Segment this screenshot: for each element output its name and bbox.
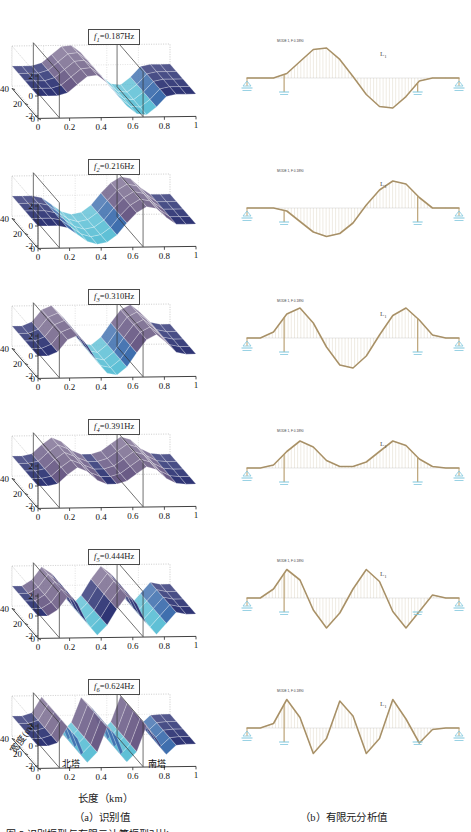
svg-text:0: 0 [29,611,34,621]
identified-mode-plot: 20-20204000.20.40.60.81 f6=0.624Hz [0,650,235,780]
svg-text:20: 20 [13,489,23,499]
span-length-label: L1 [380,700,387,709]
svg-text:0: 0 [36,512,41,520]
identified-mode-plot: 20-20204000.20.40.60.81 f2=0.216Hz [0,130,235,260]
fem-mode-plot: MODE 1, F 0.1890 L1 f6=0.610Hz [235,650,471,780]
svg-text:0.2: 0.2 [64,512,75,520]
svg-text:40: 40 [0,214,10,224]
fem-micro-text: MODE 1, F 0.1890 [277,40,304,43]
span-length-label: L1 [380,310,387,319]
svg-text:0.8: 0.8 [159,251,171,260]
fem-mode-plot: ADINA MODE 1, F 0.1890 L1 f1=0.189Hz [235,0,471,130]
tower-label-south: 南塔 [148,757,166,770]
surface-plot-svg: 20-20204000.20.40.60.81 [0,0,235,130]
svg-text:0.4: 0.4 [96,252,108,260]
svg-text:0.8: 0.8 [159,641,171,650]
identified-mode-plot: 20-20204000.20.40.60.81 f1=0.187Hz [0,0,235,130]
identified-frequency-label: f6=0.624Hz [88,679,140,695]
svg-text:1: 1 [194,380,199,390]
subcaption-a: （a）识别值 [74,809,130,824]
freq-subscript: 6 [96,685,99,692]
svg-text:0: 0 [29,221,34,231]
x-axis-title: 长度（km） [78,790,133,805]
svg-text:0.6: 0.6 [127,511,139,520]
svg-text:0.4: 0.4 [96,382,108,390]
svg-text:20: 20 [13,99,23,109]
fem-bridge-svg [235,650,471,780]
fem-micro-text: MODE 1, F 0.1890 [277,690,304,693]
fem-micro-text: MODE 1, F 0.1890 [277,430,304,433]
surface-plot-svg: 20-20204000.20.40.60.81 [0,650,235,780]
fem-bridge-svg [235,0,471,130]
subcaption-b: （b）有限元分析值 [300,809,387,824]
svg-text:0.4: 0.4 [96,772,108,780]
mode-row: 20-20204000.20.40.60.81 f1=0.187Hz ADINA… [0,0,471,130]
fem-mode-plot: MODE 1, F 0.1890 L1 f4=0.444Hz [235,390,471,520]
svg-text:0.8: 0.8 [159,121,171,130]
svg-text:2: 2 [29,71,34,81]
mode-row: 20-20204000.20.40.60.81 f5=0.444Hz MODE … [0,520,471,650]
svg-text:1: 1 [194,250,199,260]
svg-text:0: 0 [31,764,36,774]
figure-container: 20-20204000.20.40.60.81 f1=0.187Hz ADINA… [0,0,471,832]
mode-rows: 20-20204000.20.40.60.81 f1=0.187Hz ADINA… [0,0,471,780]
span-length-label: L1 [380,570,387,579]
surface-plot-svg: 20-20204000.20.40.60.81 [0,260,235,390]
svg-text:0.6: 0.6 [127,251,139,260]
freq-subscript: 5 [96,555,99,562]
freq-subscript: 3 [96,295,99,302]
svg-text:0.4: 0.4 [96,512,108,520]
svg-text:0.2: 0.2 [64,122,75,130]
identified-mode-plot: 20-20204000.20.40.60.81 f5=0.444Hz [0,520,235,650]
freq-subscript: 4 [96,425,99,432]
svg-text:1: 1 [194,640,199,650]
freq-subscript: 2 [96,165,99,172]
fem-mode-plot: MODE 1, F 0.1890 L1 f5=0.443Hz [235,520,471,650]
svg-text:0.8: 0.8 [159,381,171,390]
span-length-label: L1 [380,50,387,59]
svg-text:2: 2 [29,201,34,211]
svg-text:0: 0 [36,772,41,780]
svg-text:0: 0 [36,382,41,390]
fem-bridge-svg [235,520,471,650]
svg-text:0: 0 [36,642,41,650]
svg-text:40: 40 [0,734,10,744]
mode-row: 20-20204000.20.40.60.81 f2=0.216Hz MODE … [0,130,471,260]
svg-text:0: 0 [29,91,34,101]
span-length-label: L1 [380,440,387,449]
surface-plot-svg: 20-20204000.20.40.60.81 [0,130,235,260]
svg-text:0: 0 [29,481,34,491]
svg-text:0.4: 0.4 [96,642,108,650]
fem-bridge-svg [235,390,471,520]
svg-text:1: 1 [194,510,199,520]
svg-text:0: 0 [31,114,36,124]
mode-row: 20-20204000.20.40.60.81 f4=0.391Hz MODE … [0,390,471,520]
fem-micro-text: MODE 1, F 0.1890 [277,560,304,563]
svg-text:0: 0 [29,741,34,751]
figure-caption: 图 5 识别振型与有限元计算振型对比 [6,826,170,832]
svg-text:20: 20 [13,229,23,239]
svg-text:40: 40 [0,604,10,614]
svg-text:0: 0 [31,374,36,384]
svg-text:0.6: 0.6 [127,771,139,780]
fem-mode-plot: MODE 1, F 0.1890 L1 f3=0.309Hz [235,260,471,390]
svg-text:40: 40 [0,84,10,94]
svg-text:0: 0 [36,122,41,130]
identified-frequency-label: f5=0.444Hz [88,549,140,565]
svg-text:0.2: 0.2 [64,772,75,780]
svg-text:0: 0 [36,252,41,260]
svg-text:0.6: 0.6 [127,381,139,390]
svg-text:2: 2 [29,461,34,471]
surface-plot-svg: 20-20204000.20.40.60.81 [0,520,235,650]
identified-frequency-label: f4=0.391Hz [88,419,140,435]
svg-text:2: 2 [29,591,34,601]
svg-text:20: 20 [13,619,23,629]
svg-text:0.2: 0.2 [64,252,75,260]
svg-text:0.8: 0.8 [159,511,171,520]
svg-text:0: 0 [31,244,36,254]
svg-text:2: 2 [29,331,34,341]
svg-text:0: 0 [31,504,36,514]
svg-text:40: 40 [0,344,10,354]
svg-text:40: 40 [0,474,10,484]
svg-text:0.8: 0.8 [159,771,171,780]
